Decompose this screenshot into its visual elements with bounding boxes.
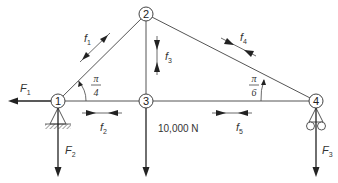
svg-text:4: 4 [313, 95, 319, 107]
member-label-f2: f2 [100, 121, 107, 135]
force-label-F2: F2 [65, 144, 76, 158]
angle-arc-node-4 [261, 79, 266, 101]
force-arrow-F3 [313, 108, 320, 177]
member-force-indicator-f2 [82, 110, 122, 116]
member-force-indicator-f5 [212, 110, 252, 116]
svg-text:6: 6 [252, 87, 257, 98]
node-4: 4 [309, 94, 323, 108]
svg-text:π: π [93, 73, 99, 84]
svg-text:1: 1 [55, 95, 61, 107]
svg-text:3: 3 [143, 95, 149, 107]
force-label-F1: F1 [20, 82, 31, 96]
member-force-indicator-f3 [154, 36, 160, 75]
svg-text:4: 4 [94, 87, 99, 98]
force-label-F3: F3 [322, 144, 333, 158]
node-3: 3 [139, 94, 153, 108]
applied-load-label: 10,000 N [158, 123, 199, 134]
member-label-f5: f5 [236, 121, 243, 135]
angle-label-node-1: π 4 [91, 73, 101, 98]
member-label-f1: f1 [84, 32, 91, 46]
load-arrow-node-3 [143, 108, 150, 177]
svg-text:2: 2 [143, 8, 149, 20]
node-1: 1 [51, 94, 65, 108]
force-arrow-F1 [8, 98, 51, 105]
truss-diagram: f1 f2 f3 f4 f5 π 4 π [0, 0, 338, 183]
node-2: 2 [139, 7, 153, 21]
force-arrow-F2 [55, 108, 62, 177]
member-force-indicator-f4 [221, 38, 256, 57]
svg-text:π: π [251, 73, 257, 84]
member-f1 [58, 14, 146, 101]
member-label-f3: f3 [165, 50, 172, 64]
angle-arc-node-1 [78, 81, 86, 101]
angle-label-node-4: π 6 [249, 73, 259, 98]
member-label-f4: f4 [240, 31, 247, 45]
